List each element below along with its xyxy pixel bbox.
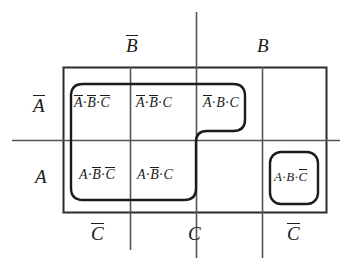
bottom-label-c: C <box>188 224 201 243</box>
cell-r1c2-label: A·B·C <box>136 96 172 110</box>
bottom-label-c-bar-right: C <box>287 224 300 243</box>
cell-r2c2-label: A·B·C <box>137 168 173 182</box>
cell-r2c1-label: A·B·C <box>79 168 115 182</box>
top-label-b: B <box>257 36 269 55</box>
cell-r2c4-label: A·B·C <box>274 170 307 183</box>
left-label-a-bar: A <box>33 96 45 115</box>
left-label-a: A <box>35 167 47 186</box>
bottom-label-c-bar-left: C <box>91 224 104 243</box>
cell-r1c1-label: A·B·C <box>74 96 110 110</box>
top-label-b-bar: B <box>126 36 138 55</box>
karnaugh-map-diagram: B B C C C A A A·B·C A·B·C A·B·C A·B·C A·… <box>0 0 350 264</box>
cell-r1c3-label: A·B·C <box>203 96 239 110</box>
